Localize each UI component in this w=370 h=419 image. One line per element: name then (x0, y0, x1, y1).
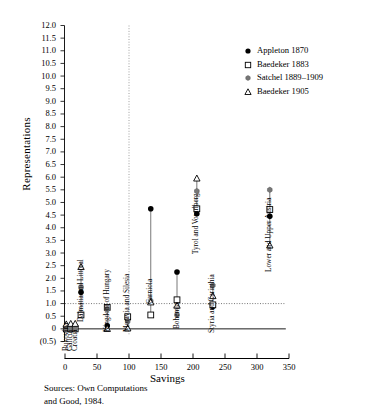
y-tick-label: 0.5 (22, 311, 56, 321)
group-label: Styria and Carinthia (207, 274, 216, 333)
source-note: Sources: Own Computations and Good, 1984… (44, 382, 148, 407)
legend-item: Baedeker 1905 (243, 85, 323, 99)
group-label: Tyrol and Vorarlberg (191, 194, 200, 255)
legend-label: Appleton 1870 (257, 45, 308, 55)
filled-circle-icon (243, 46, 253, 56)
group-label: Kingdom of Hungary (102, 269, 111, 332)
legend-item: Appleton 1870 (243, 44, 323, 58)
y-tick-label: 9.5 (22, 83, 56, 93)
chart-figure: 12.011.511.010.510.09.59.08.58.07.57.06.… (0, 0, 370, 419)
y-tick-label: 11.0 (22, 45, 56, 55)
legend-item: Satchel 1889–1909 (243, 71, 323, 85)
x-tick-label: 150 (148, 362, 174, 372)
group-label: Bohemia (172, 303, 181, 329)
y-tick-label: 3.5 (22, 235, 56, 245)
y-tick-label: 0 (22, 323, 56, 333)
x-axis-title: Savings (150, 372, 185, 384)
group-label: Carniola (145, 279, 154, 304)
y-tick-label: 3.0 (22, 248, 56, 258)
legend-item: Baedeker 1883 (243, 58, 323, 72)
y-tick-label: 11.5 (22, 33, 56, 43)
y-tick-label: (0.5) (22, 336, 56, 346)
y-tick-label: 10.5 (22, 58, 56, 68)
x-tick-label: 0 (52, 362, 78, 372)
legend-label: Satchel 1889–1909 (257, 72, 323, 82)
group-label: Lower and Upper Austria (264, 198, 273, 272)
x-tick-label: 350 (276, 362, 302, 372)
x-tick-label: 250 (212, 362, 238, 372)
group-label: Dalmatia and Littoral (76, 259, 85, 322)
x-tick-label: 100 (116, 362, 142, 372)
legend-label: Baedeker 1905 (257, 86, 309, 96)
y-tick-label: 10.0 (22, 71, 56, 81)
star-icon (243, 73, 253, 83)
y-tick-label: 2.0 (22, 273, 56, 283)
chart-legend: Appleton 1870Baedeker 1883Satchel 1889–1… (243, 44, 323, 98)
y-axis-title: Representations (20, 94, 32, 214)
y-tick-label: 12.0 (22, 20, 56, 30)
legend-label: Baedeker 1883 (257, 59, 309, 69)
y-tick-label: 4.0 (22, 222, 56, 232)
x-tick-label: 50 (84, 362, 110, 372)
x-tick-label: 200 (180, 362, 206, 372)
open-square-icon (243, 60, 253, 70)
y-tick-label: 1.0 (22, 298, 56, 308)
y-tick-label: 2.5 (22, 260, 56, 270)
x-tick-label: 300 (244, 362, 270, 372)
group-label: Croatia (70, 330, 79, 351)
y-tick-label: 1.5 (22, 285, 56, 295)
open-triangle-icon (243, 87, 253, 97)
group-label: Moravia and Silesia (122, 273, 131, 331)
